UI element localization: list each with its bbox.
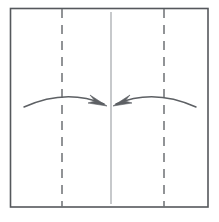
diagram-canvas [0, 0, 219, 222]
origami-diagram: Origami fold step diagram Square sheet w… [0, 0, 219, 222]
paper-square [11, 9, 209, 208]
